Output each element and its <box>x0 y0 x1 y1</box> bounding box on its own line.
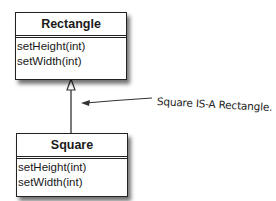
method-item: setWidth(int) <box>17 54 126 69</box>
class-name: Square <box>17 134 127 156</box>
method-item: setHeight(int) <box>17 39 126 54</box>
inheritance-arrowhead-icon <box>67 79 75 90</box>
method-list: setHeight(int) setWidth(int) <box>16 38 126 69</box>
method-list: setHeight(int) setWidth(int) <box>17 159 127 190</box>
class-square[interactable]: Square setHeight(int) setWidth(int) <box>16 133 128 197</box>
method-item: setHeight(int) <box>18 160 127 175</box>
annotation-arrow-line <box>86 98 152 103</box>
annotation-arrowhead-icon <box>81 100 90 106</box>
class-rectangle[interactable]: Rectangle setHeight(int) setWidth(int) <box>15 12 127 80</box>
class-name: Rectangle <box>16 13 126 35</box>
method-item: setWidth(int) <box>18 175 127 190</box>
